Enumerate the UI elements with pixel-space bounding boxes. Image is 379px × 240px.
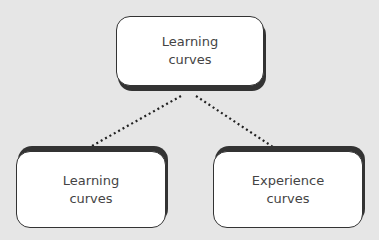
connector-left [90,96,181,147]
child-label-line1: Experience [252,172,325,190]
root-label-line2: curves [162,51,218,69]
root-label-line1: Learning [162,33,218,51]
child-label-line2: curves [63,190,119,208]
child-node-experience-curves: Experience curves [213,151,363,228]
child-label-line2: curves [252,190,325,208]
child-node-learning-curves: Learning curves [16,151,166,228]
connector-right [196,96,273,147]
child-label-line1: Learning [63,172,119,190]
root-node: Learning curves [116,16,264,86]
